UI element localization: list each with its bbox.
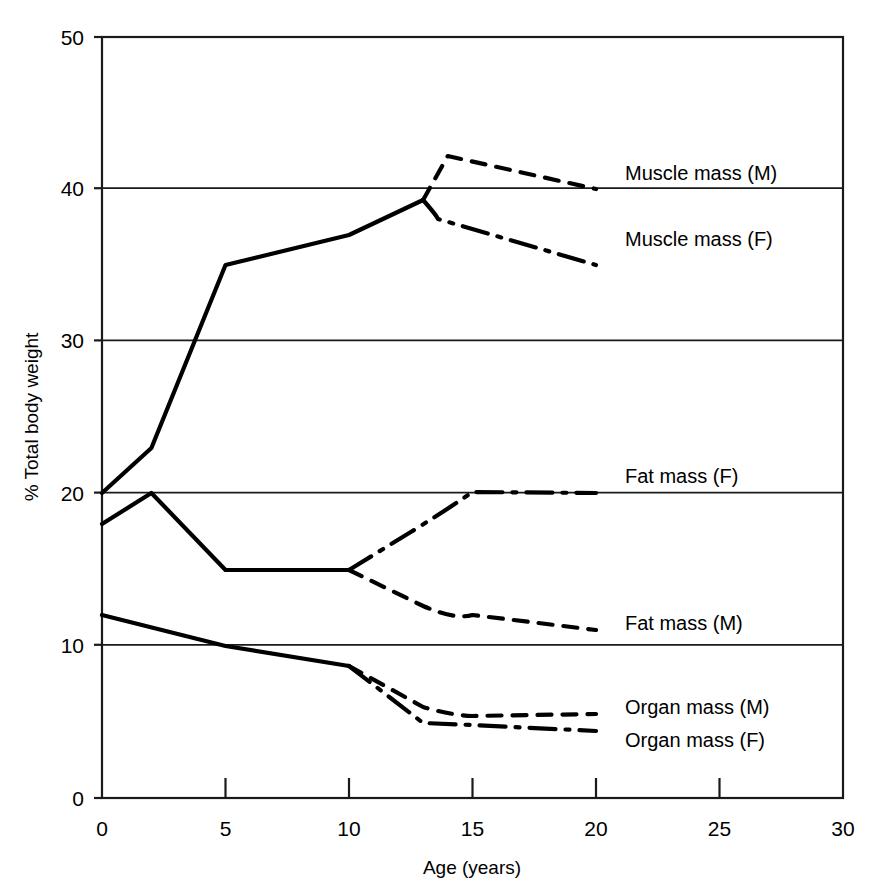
y-tick-label-20: 20 bbox=[61, 482, 84, 505]
chart-background bbox=[0, 0, 879, 892]
x-tick-label-15: 15 bbox=[461, 817, 484, 840]
x-axis-title: Age (years) bbox=[423, 857, 521, 878]
series-label-organ-mass-female: Organ mass (F) bbox=[625, 729, 765, 751]
body-composition-line-chart: 50 40 30 20 10 0 0 5 10 15 20 25 30 % To… bbox=[0, 0, 879, 892]
x-tick-label-20: 20 bbox=[584, 817, 607, 840]
chart-figure: 50 40 30 20 10 0 0 5 10 15 20 25 30 % To… bbox=[0, 0, 879, 892]
y-tick-label-0: 0 bbox=[72, 787, 84, 810]
x-tick-label-10: 10 bbox=[337, 817, 360, 840]
y-tick-label-10: 10 bbox=[61, 634, 84, 657]
x-tick-label-0: 0 bbox=[96, 817, 108, 840]
x-tick-label-5: 5 bbox=[220, 817, 232, 840]
x-tick-label-25: 25 bbox=[708, 817, 731, 840]
x-tick-label-30: 30 bbox=[831, 817, 854, 840]
y-axis-title: % Total body weight bbox=[21, 332, 42, 501]
series-label-organ-mass-male: Organ mass (M) bbox=[625, 696, 769, 718]
series-label-muscle-mass-male: Muscle mass (M) bbox=[625, 162, 777, 184]
series-label-fat-mass-male: Fat mass (M) bbox=[625, 612, 743, 634]
y-tick-label-30: 30 bbox=[61, 329, 84, 352]
series-label-fat-mass-female: Fat mass (F) bbox=[625, 465, 738, 487]
y-tick-label-50: 50 bbox=[61, 26, 84, 49]
series-label-muscle-mass-female: Muscle mass (F) bbox=[625, 228, 773, 250]
y-tick-label-40: 40 bbox=[61, 177, 84, 200]
